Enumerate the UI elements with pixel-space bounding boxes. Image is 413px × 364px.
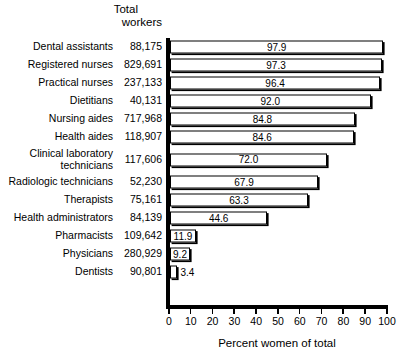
- total-workers-header: Total workers: [0, 3, 166, 29]
- bar-row: 11.9: [170, 227, 413, 245]
- x-tick: [321, 309, 323, 314]
- bar-series: 97.997.396.492.084.884.672.067.963.344.6…: [170, 38, 413, 281]
- category-row: Dental assistants88,175: [0, 38, 166, 56]
- bar: 9.2: [170, 248, 190, 261]
- bar-row: 97.3: [170, 56, 413, 74]
- bar-value-label: 63.3: [171, 195, 307, 205]
- category-label: Therapists: [64, 194, 118, 206]
- category-row: Physicians280,929: [0, 245, 166, 263]
- bar: 67.9: [170, 176, 318, 189]
- x-tick-label: 80: [338, 315, 350, 327]
- bar: 97.3: [170, 59, 382, 72]
- total-workers-value: 84,139: [118, 212, 166, 224]
- bar-value-label: 11.9: [171, 231, 195, 241]
- category-row: Health administrators84,139: [0, 209, 166, 227]
- total-workers-value: 75,161: [118, 194, 166, 206]
- category-row: Radiologic technicians52,230: [0, 173, 166, 191]
- total-workers-value: 52,230: [118, 176, 166, 188]
- total-workers-value: 40,131: [118, 95, 166, 107]
- bar-value-label: 84.6: [171, 132, 353, 142]
- bar-row: 72.0: [170, 146, 413, 173]
- bar-row: 63.3: [170, 191, 413, 209]
- category-row: Dentists90,801: [0, 263, 166, 281]
- header-line-1: Total: [0, 3, 166, 16]
- x-tick: [386, 309, 388, 314]
- x-tick: [212, 309, 214, 314]
- header-line-2: workers: [0, 16, 166, 29]
- total-workers-value: 717,968: [118, 113, 166, 125]
- plot-area: 97.997.396.492.084.884.672.067.963.344.6…: [166, 32, 413, 316]
- x-tick: [168, 309, 170, 314]
- bar-value-label: 67.9: [171, 177, 317, 187]
- x-tick-label: 90: [359, 315, 371, 327]
- bar-row: 3.4: [170, 263, 413, 281]
- bar-row: 84.8: [170, 110, 413, 128]
- bar: 63.3: [170, 194, 308, 207]
- total-workers-value: 237,133: [118, 77, 166, 89]
- bar-value-label: 9.2: [171, 249, 189, 259]
- bar-value-label: 72.0: [171, 155, 326, 165]
- bar-value-label: 96.4: [171, 78, 379, 88]
- bar-value-label: 44.6: [171, 213, 266, 223]
- bar-row: 92.0: [170, 92, 413, 110]
- bar: 96.4: [170, 77, 380, 90]
- category-row: Practical nurses237,133: [0, 74, 166, 92]
- bar-value-label: 97.3: [171, 60, 381, 70]
- bar: 3.4: [170, 266, 177, 279]
- bar-row: 84.6: [170, 128, 413, 146]
- x-tick: [233, 309, 235, 314]
- category-label: Nursing aides: [49, 113, 118, 125]
- x-tick: [299, 309, 301, 314]
- total-workers-value: 109,642: [118, 230, 166, 242]
- x-tick: [342, 309, 344, 314]
- bar: 97.9: [170, 41, 383, 54]
- x-tick-label: 50: [272, 315, 284, 327]
- bar-value-label: 84.8: [171, 114, 354, 124]
- x-tick-label: 100: [378, 315, 396, 327]
- bar-row: 9.2: [170, 245, 413, 263]
- bar-value-label: 92.0: [171, 96, 370, 106]
- x-tick-label: 40: [250, 315, 262, 327]
- category-row: Clinical laboratorytechnicians117,606: [0, 146, 166, 173]
- category-row: Therapists75,161: [0, 191, 166, 209]
- x-axis-label: Percent women of total: [166, 337, 388, 349]
- bar: 44.6: [170, 212, 267, 225]
- category-label: Pharmacists: [55, 230, 118, 242]
- bar-chart-figure: Total workers Dental assistants88,175Reg…: [0, 0, 413, 364]
- x-tick-label: 60: [294, 315, 306, 327]
- total-workers-value: 117,606: [118, 154, 166, 166]
- x-tick: [190, 309, 192, 314]
- x-tick: [277, 309, 279, 314]
- bar: 84.6: [170, 131, 354, 144]
- category-label: Registered nurses: [28, 59, 118, 71]
- category-label: Radiologic technicians: [9, 176, 118, 188]
- bar-value-label: 3.4: [176, 267, 210, 277]
- bar-row: 96.4: [170, 74, 413, 92]
- category-row: Dietitians40,131: [0, 92, 166, 110]
- x-tick-label: 30: [229, 315, 241, 327]
- x-tick: [364, 309, 366, 314]
- bar-row: 97.9: [170, 38, 413, 56]
- category-row: Health aides118,907: [0, 128, 166, 146]
- x-tick-label: 70: [316, 315, 328, 327]
- category-row: Registered nurses829,691: [0, 56, 166, 74]
- x-tick-label: 0: [166, 315, 172, 327]
- category-label: Health aides: [55, 131, 118, 143]
- category-label: Health administrators: [14, 212, 118, 224]
- x-tick-label: 20: [207, 315, 219, 327]
- bar: 11.9: [170, 230, 196, 243]
- total-workers-value: 280,929: [118, 248, 166, 260]
- total-workers-value: 90,801: [118, 266, 166, 278]
- category-label: Clinical laboratorytechnicians: [30, 148, 118, 171]
- total-workers-value: 118,907: [118, 131, 166, 143]
- category-label: Dentists: [75, 266, 118, 278]
- x-tick-label: 10: [185, 315, 197, 327]
- bar: 92.0: [170, 95, 371, 108]
- category-label: Practical nurses: [38, 77, 118, 89]
- total-workers-value: 829,691: [118, 59, 166, 71]
- bar-row: 44.6: [170, 209, 413, 227]
- bar: 72.0: [170, 153, 327, 166]
- total-workers-value: 88,175: [118, 41, 166, 53]
- category-row: Nursing aides717,968: [0, 110, 166, 128]
- category-label: Physicians: [63, 248, 118, 260]
